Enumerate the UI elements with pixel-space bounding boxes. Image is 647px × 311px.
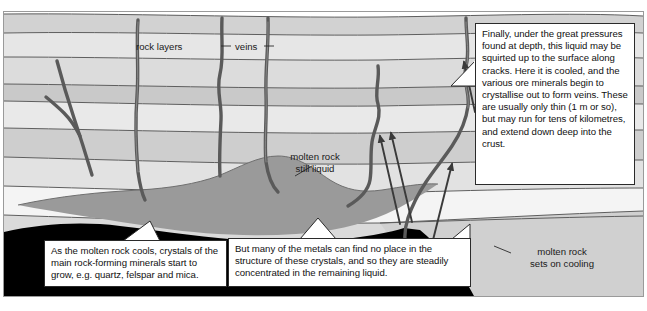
label-molten-sets-line2: sets on cooling <box>530 258 594 269</box>
label-molten-rock-sets-on-cooling: molten rock sets on cooling <box>516 246 608 270</box>
label-molten-rock-still-liquid: molten rock still liquid <box>275 151 355 175</box>
label-veins: veins <box>235 41 257 53</box>
callout-crystallisation: As the molten rock cools, crystals of th… <box>44 240 227 287</box>
label-rock-layers: rock layers <box>136 41 182 53</box>
callout-metal-concentration: But many of the metals can find no place… <box>228 238 471 287</box>
label-molten-liquid-line1: molten rock <box>290 151 340 162</box>
label-molten-sets-line1: molten rock <box>537 246 587 257</box>
label-molten-liquid-line2: still liquid <box>296 163 335 174</box>
diagram-canvas: Finally, under the great pressures found… <box>0 0 647 311</box>
callout-vein-formation: Finally, under the great pressures found… <box>475 23 635 185</box>
